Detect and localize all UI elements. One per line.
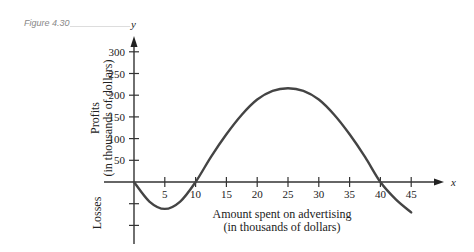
y-axis-subtitle: (in thousands of dollars): [101, 60, 115, 177]
y-tick-label: 50: [114, 154, 126, 166]
x-tick-label: 30: [313, 188, 325, 200]
x-tick-label: 5: [162, 188, 168, 200]
profit-curve: [134, 88, 411, 212]
x-tick-label: 10: [190, 188, 202, 200]
x-tick-label: 25: [283, 188, 295, 200]
x-tick-label: 35: [344, 188, 356, 200]
x-axis-subtitle: (in thousands of dollars): [224, 220, 341, 234]
y-tick-label: 300: [109, 46, 126, 58]
x-tick-label: 15: [221, 188, 233, 200]
y-axis-title: Profits: [88, 102, 102, 134]
profit-line: [134, 88, 411, 212]
x-tick-label: 45: [406, 188, 418, 200]
x-tick-label: 20: [252, 188, 264, 200]
x-axis-variable: x: [450, 176, 456, 188]
x-axis-arrow-icon: [434, 179, 444, 186]
y-axis-variable: y: [130, 18, 136, 30]
y-axis-arrow-icon: [131, 36, 138, 47]
x-axis-title: Amount spent on advertising: [213, 207, 352, 221]
axis-labels: xy5101520253035404550100150200250300Prof…: [88, 18, 456, 234]
x-tick-label: 40: [375, 188, 387, 200]
losses-label: Losses: [90, 196, 104, 229]
profit-chart: xy5101520253035404550100150200250300Prof…: [0, 0, 474, 252]
